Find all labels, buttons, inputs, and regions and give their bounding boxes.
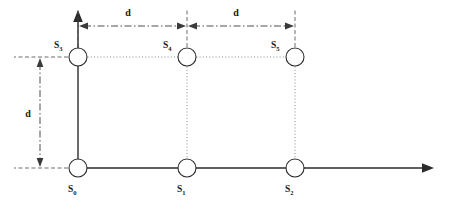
node-circle-s3[interactable] <box>69 48 87 66</box>
dimension-label-top-left: d <box>125 7 131 18</box>
node-circle-s1[interactable] <box>178 159 196 177</box>
node-circle-s0[interactable] <box>69 159 87 177</box>
dotted-connectors <box>78 57 295 168</box>
dimension-d-left: d <box>14 57 68 168</box>
node-circle-s2[interactable] <box>286 159 304 177</box>
diagram-canvas: d d d <box>0 0 449 211</box>
dimension-arrow-down-icon <box>37 158 44 167</box>
dimension-arrow-right-icon <box>177 23 186 30</box>
dimension-arrow-left-2-icon <box>188 23 197 30</box>
node-labels-group: S0 S1 S2 S3 S4 S5 <box>54 40 294 196</box>
axes-group <box>73 10 434 173</box>
dimension-arrow-up-icon <box>37 58 44 67</box>
node-label-s0: S0 <box>68 184 77 196</box>
dimension-d-top-right: d <box>188 7 295 47</box>
node-label-s5: S5 <box>271 40 280 52</box>
dimension-arrow-left-icon <box>79 23 88 30</box>
dimension-label-top-right: d <box>233 7 239 18</box>
node-label-s4: S4 <box>163 40 172 52</box>
node-label-s2: S2 <box>285 184 294 196</box>
node-circle-s5[interactable] <box>286 48 304 66</box>
node-circle-s4[interactable] <box>178 48 196 66</box>
node-label-s1: S1 <box>177 184 186 196</box>
dimension-arrow-right-2-icon <box>285 23 294 30</box>
dimension-d-top-left: d <box>78 7 187 47</box>
geometry-diagram: d d d <box>0 0 449 211</box>
node-label-s3: S3 <box>54 40 63 52</box>
horizontal-axis-arrow-icon <box>422 163 434 173</box>
dimension-label-left: d <box>25 108 31 119</box>
